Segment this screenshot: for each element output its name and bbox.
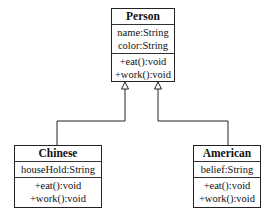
class-name: Person <box>112 9 174 25</box>
methods-section: +eat():void +work():void <box>112 53 174 82</box>
methods-section: +eat():void +work():void <box>194 177 260 206</box>
method: +eat():void <box>15 179 101 192</box>
hollow-triangle-arrow-icon <box>155 82 162 89</box>
class-name: Chinese <box>15 146 101 162</box>
class-chinese[interactable]: Chinese houseHold:String +eat():void +wo… <box>14 145 102 208</box>
methods-section: +eat():void +work():void <box>15 177 101 206</box>
attribute: name:String <box>112 26 174 39</box>
attribute: houseHold:String <box>15 163 101 176</box>
generalization-chinese-person <box>57 89 125 145</box>
method: +work():void <box>194 192 260 205</box>
class-american[interactable]: American belief:String +eat():void +work… <box>193 145 261 208</box>
class-person[interactable]: Person name:String color:String +eat():v… <box>111 8 175 82</box>
class-name: American <box>194 146 260 162</box>
method: +work():void <box>112 68 174 81</box>
attribute: belief:String <box>194 163 260 176</box>
attribute: color:String <box>112 39 174 52</box>
attributes-section: name:String color:String <box>112 25 174 53</box>
attributes-section: belief:String <box>194 162 260 177</box>
method: +work():void <box>15 192 101 205</box>
method: +eat():void <box>112 55 174 68</box>
hollow-triangle-arrow-icon <box>122 82 129 89</box>
generalization-american-person <box>158 89 228 145</box>
attributes-section: houseHold:String <box>15 162 101 177</box>
method: +eat():void <box>194 179 260 192</box>
